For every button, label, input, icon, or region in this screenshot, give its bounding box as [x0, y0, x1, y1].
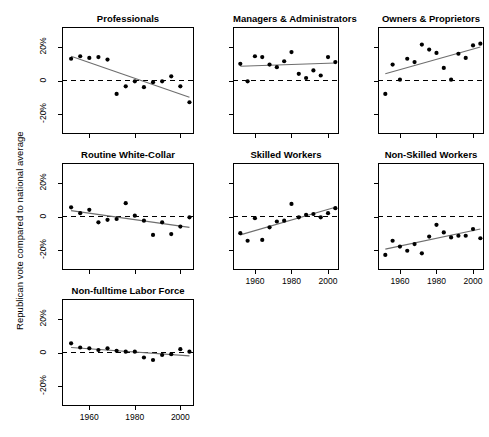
- x-axis-tick-label: 1960: [73, 412, 105, 422]
- panel-title: Managers & Administrators: [233, 13, 339, 24]
- x-axis-tick-label: 1980: [119, 412, 151, 422]
- panel-title: Non-Skilled Workers: [378, 149, 484, 160]
- panel-title: Professionals: [62, 13, 194, 24]
- x-axis-tick: [291, 134, 292, 138]
- y-axis-tick: [374, 183, 378, 184]
- y-axis-tick: [58, 81, 62, 82]
- x-axis-tick: [473, 134, 474, 138]
- y-axis-tick-label: 20%: [38, 171, 48, 193]
- y-axis-tick: [374, 81, 378, 82]
- x-axis-tick: [328, 134, 329, 138]
- y-axis-tick: [374, 217, 378, 218]
- x-axis-tick: [436, 270, 437, 274]
- x-axis-tick: [89, 270, 90, 274]
- panel-frame: [62, 299, 194, 406]
- x-axis-tick-label: 1960: [384, 276, 416, 286]
- y-axis-tick: [229, 250, 233, 251]
- y-axis-tick: [58, 319, 62, 320]
- panel-title: Non-fulltime Labor Force: [62, 285, 194, 296]
- y-axis-tick: [374, 250, 378, 251]
- y-axis-tick: [58, 250, 62, 251]
- y-axis-tick-label: 0: [38, 69, 48, 91]
- x-axis-tick: [291, 270, 292, 274]
- panel-frame: [378, 27, 484, 134]
- panel-frame: [378, 163, 484, 270]
- y-axis-tick-label: 20%: [38, 35, 48, 57]
- panel-frame: [233, 27, 339, 134]
- y-axis-tick: [58, 114, 62, 115]
- panel-frame: [62, 27, 194, 134]
- x-axis-tick: [180, 270, 181, 274]
- y-axis-tick: [229, 81, 233, 82]
- x-axis-tick-label: 2000: [164, 412, 196, 422]
- y-axis-tick-label: 20%: [38, 307, 48, 329]
- panel-title: Skilled Workers: [233, 149, 339, 160]
- y-axis-tick-label: -20%: [38, 102, 48, 124]
- x-axis-tick-label: 1980: [275, 276, 307, 286]
- panel-title: Routine White-Collar: [62, 149, 194, 160]
- x-axis-tick: [328, 270, 329, 274]
- y-axis-tick: [58, 183, 62, 184]
- panel-title: Owners & Proprietors: [378, 13, 484, 24]
- x-axis-tick: [135, 406, 136, 410]
- x-axis-tick-label: 2000: [457, 276, 489, 286]
- y-axis-tick: [229, 217, 233, 218]
- x-axis-tick: [400, 134, 401, 138]
- y-axis-tick-label: -20%: [38, 238, 48, 260]
- x-axis-tick: [135, 134, 136, 138]
- x-axis-tick: [135, 270, 136, 274]
- x-axis-tick: [89, 406, 90, 410]
- x-axis-tick-label: 1960: [239, 276, 271, 286]
- x-axis-tick-label: 1980: [420, 276, 452, 286]
- x-axis-tick: [473, 270, 474, 274]
- y-axis-tick: [229, 47, 233, 48]
- x-axis-tick: [180, 134, 181, 138]
- x-axis-tick-label: 2000: [312, 276, 344, 286]
- y-axis-tick: [58, 47, 62, 48]
- panel-frame: [233, 163, 339, 270]
- x-axis-tick: [180, 406, 181, 410]
- y-axis-tick-label: 0: [38, 205, 48, 227]
- y-axis-tick: [374, 114, 378, 115]
- y-axis-tick-label: -20%: [38, 374, 48, 396]
- panel-frame: [62, 163, 194, 270]
- y-axis-tick: [229, 114, 233, 115]
- small-multiples-figure: Republican vote compared to national ave…: [0, 0, 489, 437]
- y-axis-tick: [229, 183, 233, 184]
- x-axis-tick: [255, 134, 256, 138]
- y-axis-tick: [58, 217, 62, 218]
- y-axis-label: Republican vote compared to national ave…: [14, 131, 25, 330]
- x-axis-tick: [89, 134, 90, 138]
- y-axis-tick: [58, 353, 62, 354]
- x-axis-tick: [400, 270, 401, 274]
- y-axis-tick: [374, 47, 378, 48]
- y-axis-tick-label: 0: [38, 341, 48, 363]
- y-axis-tick: [58, 386, 62, 387]
- x-axis-tick: [436, 134, 437, 138]
- x-axis-tick: [255, 270, 256, 274]
